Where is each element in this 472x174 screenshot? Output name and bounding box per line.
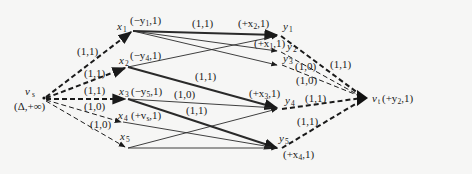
label-x2-y4: (1,1) [195,70,216,83]
node-y2: y 2 (+x1,1) [254,37,297,54]
label-y4-vt: (1,1) [305,92,326,105]
y5-sub: 5 [285,137,289,146]
y4-sub: 4 [291,99,295,108]
label-x1-y1: (1,1) [192,17,213,30]
y5-name: y [278,132,284,144]
y5-label: (+x4,1) [283,148,314,162]
label-vs-x5: (1,0) [90,118,111,131]
x1-sub: 1 [123,25,127,34]
node-vt: v t (+y2,1) [372,92,413,106]
node-y1: y 1 (+x2,1) [238,17,293,34]
vt-sub: t [378,97,381,106]
vt-label: (+y2,1) [382,92,413,106]
y1-label: (+x2,1) [238,17,269,31]
x3-name: x [118,85,124,97]
label-y5-vt: (1,1) [297,115,318,128]
x2-label: (−y4,1) [130,49,161,63]
label-vs-x1: (1,1) [77,45,98,58]
x4-sub: 4 [124,114,128,123]
sink-edge-labels: (1,1) (1,0) (1,0) (1,1) (1,1) [295,58,351,128]
node-y4: y 4 (+x3,1) [249,87,295,108]
label-vs-x2: (1,1) [84,67,105,80]
edge-x4-y5 [123,122,277,148]
x1-label: (−y1,1) [130,14,161,28]
vt-name: v [372,92,377,104]
node-y3: y 3 [282,52,293,66]
x4-label: (+vs,1) [131,109,162,123]
node-x4: x 4 (+vs,1) [117,109,162,123]
y3-sub: 3 [289,57,293,66]
flow-network-diagram: v s (Δ,+∞) (1,1) (1,1) (1,1) (1,0) (1,0)… [0,0,472,174]
label-y1-vt: (1,1) [330,58,351,71]
x1-name: x [116,20,122,32]
node-x5: x 5 [119,130,130,144]
x5-name: x [119,130,125,142]
y1-sub: 1 [289,25,293,34]
x3-sub: 3 [125,90,129,99]
label-vs-x4: (1,0) [84,100,105,113]
vs-sub: s [32,90,35,99]
node-x2: x 2 (−y4,1) [118,49,161,68]
x2-name: x [118,54,124,66]
label-y3-vt: (1,0) [296,74,317,87]
sink-arrowhead [357,90,368,106]
node-vs: v s (Δ,+∞) [14,85,46,113]
y4-label: (+x3,1) [249,87,280,101]
y3-name: y [282,52,288,64]
y2-sub: 2 [293,45,297,54]
label-x3-y5: (1,1) [186,104,207,117]
y2-label: (+x1,1) [254,37,285,51]
x3-label: (−y5,1) [131,85,162,99]
label-x3-y4: (1,0) [174,88,195,101]
x5-sub: 5 [126,135,130,144]
y1-name: y [282,20,288,32]
vs-name: v [25,85,30,97]
label-vs-x3: (1,1) [84,84,105,97]
vs-label: (Δ,+∞) [14,100,46,113]
y4-name: y [284,94,290,106]
x2-sub: 2 [125,59,129,68]
label-y2-vt: (1,0) [295,60,316,73]
node-x3: x 3 (−y5,1) [118,85,162,99]
x4-name: x [117,109,123,121]
y2-name: y [286,40,292,52]
source-edge-labels: (1,1) (1,1) (1,1) (1,0) (1,0) [77,45,111,131]
